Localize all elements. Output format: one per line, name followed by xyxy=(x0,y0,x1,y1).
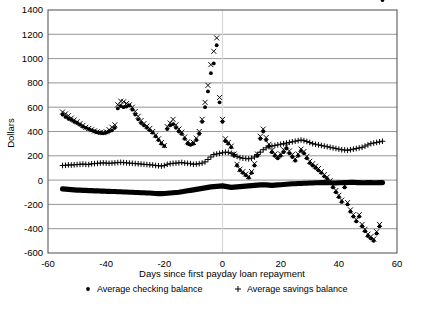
legend-label: Average checking balance xyxy=(97,284,202,294)
x-tick-label: -40 xyxy=(99,258,113,269)
scatter-plot: -600-400-2000200400600800100012001400 -6… xyxy=(0,0,425,310)
x-tick-label: 60 xyxy=(392,258,403,269)
y-tick-label: -400 xyxy=(24,223,43,234)
y-tick-label: 600 xyxy=(27,102,43,113)
y-tick-label: 1400 xyxy=(22,4,43,15)
chart-figure: -600-400-2000200400600800100012001400 -6… xyxy=(0,0,425,310)
y-tick-label: 1000 xyxy=(22,53,43,64)
y-tick-label: 200 xyxy=(27,150,43,161)
x-axis-title: Days since first payday loan repayment xyxy=(139,268,305,279)
legend-dot-marker xyxy=(86,287,90,291)
y-tick-label: 800 xyxy=(27,77,43,88)
x-tick-label: 40 xyxy=(334,258,345,269)
y-axis-title: Dollars xyxy=(5,118,16,148)
y-tick-label: 400 xyxy=(27,126,43,137)
legend-label: Average savings balance xyxy=(247,284,347,294)
y-tick-label: -600 xyxy=(24,247,43,258)
y-tick-label: -200 xyxy=(24,199,43,210)
y-tick-label: 0 xyxy=(38,175,43,186)
x-tick-label: -60 xyxy=(41,258,55,269)
y-tick-label: 1200 xyxy=(22,29,43,40)
